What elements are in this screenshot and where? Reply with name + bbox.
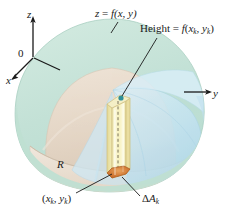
prism-face-right — [126, 98, 130, 174]
surface-eq-args: (x, y) — [114, 7, 137, 19]
label-axis-y: y — [213, 88, 218, 99]
riemann-column-prism — [107, 95, 130, 178]
label-axis-x: x — [6, 75, 11, 86]
axis-x-text: x — [6, 74, 11, 86]
label-axis-z: z — [27, 9, 31, 20]
surface-contact-dot — [118, 95, 123, 100]
delta-subscript: k — [156, 198, 159, 206]
origin-text: 0 — [18, 47, 24, 59]
axis-y-text: y — [213, 87, 218, 99]
label-sample-point: (xk, yk) — [42, 193, 71, 206]
label-height-callout: Height = f(xk, yk) — [140, 23, 214, 36]
figure-canvas: z = f(x, y) Height = f(xk, yk) z 0 x y R… — [0, 0, 227, 216]
prism-side-left — [107, 104, 112, 178]
label-area-element: ΔAk — [142, 193, 159, 206]
axis-z-text: z — [27, 8, 31, 20]
height-equals: = — [173, 22, 179, 34]
surface-eq-z: z — [95, 7, 99, 19]
label-surface-equation: z = f(x, y) — [95, 8, 137, 19]
surface-eq-equals: = — [102, 7, 108, 19]
height-close-paren: ) — [210, 22, 214, 34]
region-text: R — [57, 158, 64, 170]
label-region-R: R — [57, 159, 64, 170]
delta-A: A — [149, 192, 156, 204]
label-origin: 0 — [18, 48, 24, 59]
point-close-paren: ) — [67, 192, 71, 204]
height-word: Height — [140, 22, 170, 34]
